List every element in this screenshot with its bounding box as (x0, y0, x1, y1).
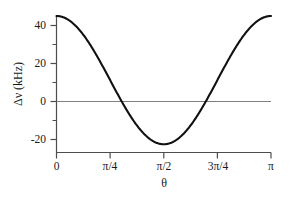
axis-spines (56, 16, 271, 153)
y-tick-label-minus-20: -20 (16, 134, 46, 146)
x-axis-title: θ (148, 177, 180, 189)
y-tick-label-0: 0 (22, 96, 46, 108)
x-tick-label-0: 0 (42, 161, 71, 173)
y-tick-label-40: 40 (22, 20, 46, 32)
y-axis-title: Δν (kHz) (12, 44, 24, 124)
x-tick-label-3pi-over-4: 3π/4 (198, 161, 238, 173)
x-tick-label-pi: π (257, 161, 285, 173)
y-tick-label-20: 20 (22, 58, 46, 70)
data-series-curve (57, 16, 272, 144)
x-tick-label-pi-over-2: π/2 (148, 161, 180, 173)
chart-figure: 40 20 0 -20 0 π/4 π/2 3π/4 π Δν (kHz) θ (0, 0, 294, 199)
x-tick-label-pi-over-4: π/4 (94, 161, 126, 173)
x-major-ticks (57, 153, 272, 159)
